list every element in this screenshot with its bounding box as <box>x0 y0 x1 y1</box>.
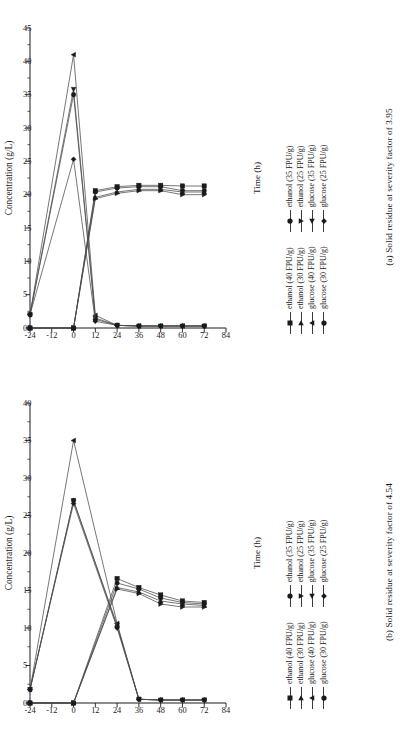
svg-text:60: 60 <box>178 331 186 340</box>
svg-text:40: 40 <box>23 399 31 408</box>
data-series <box>27 438 206 702</box>
svg-text:30: 30 <box>23 124 31 133</box>
legend-item: glucose (35 FPU/g) <box>308 520 316 608</box>
legend-marker-triangle-right-icon <box>297 687 305 709</box>
legend-item: ethanol (35 FPU/g) <box>286 145 294 233</box>
panel-a-svg: 051015202530354045-24-12012243648607284 <box>30 28 226 328</box>
data-series <box>28 587 207 706</box>
panel-b-legend: ethanol (40 FPU/g)ethanol (30 FPU/g)gluc… <box>286 399 328 709</box>
svg-text:40: 40 <box>23 57 31 66</box>
legend-item: ethanol (40 FPU/g) <box>286 621 294 709</box>
svg-text:12: 12 <box>91 706 99 715</box>
legend-item: glucose (25 FPU/g) <box>320 145 328 233</box>
svg-text:35: 35 <box>23 90 31 99</box>
svg-text:15: 15 <box>23 224 31 233</box>
svg-text:84: 84 <box>222 331 231 340</box>
svg-text:25: 25 <box>23 157 31 166</box>
legend-label: ethanol (25 FPU/g) <box>297 146 305 208</box>
legend-item: ethanol (30 FPU/g) <box>297 621 305 709</box>
svg-text:72: 72 <box>200 706 208 715</box>
panel-a-y-axis-title: Concentration (g/L) <box>4 28 14 328</box>
legend-label: ethanol (25 FPU/g) <box>297 521 305 583</box>
data-series <box>28 187 207 330</box>
panel-a-caption: (a) Solid residue at severity factor of … <box>384 0 394 374</box>
legend-marker-square-icon <box>286 312 294 334</box>
legend-label: ethanol (40 FPU/g) <box>286 247 294 309</box>
legend-label: glucose (25 FPU/g) <box>320 520 328 583</box>
svg-text:5: 5 <box>23 290 27 299</box>
figure-page: Concentration (g/L) 051015202530354045-2… <box>0 0 400 749</box>
legend-marker-circle-icon <box>320 687 328 709</box>
panel-b-x-axis-title: Time (h) <box>252 403 262 703</box>
svg-text:10: 10 <box>23 624 31 633</box>
panel-a-legend: ethanol (40 FPU/g)ethanol (30 FPU/g)gluc… <box>286 24 328 334</box>
legend-label: glucose (25 FPU/g) <box>320 145 328 208</box>
legend-column: ethanol (35 FPU/g)ethanol (25 FPU/g)gluc… <box>286 145 328 233</box>
figure-panel-b: Concentration (g/L) 0510152025303540-24-… <box>0 375 400 749</box>
svg-text:35: 35 <box>23 436 31 445</box>
legend-item: glucose (40 FPU/g) <box>308 621 316 709</box>
svg-text:20: 20 <box>23 549 31 558</box>
svg-text:45: 45 <box>23 24 31 33</box>
legend-label: glucose (35 FPU/g) <box>308 520 316 583</box>
svg-text:-12: -12 <box>46 706 57 715</box>
svg-text:-12: -12 <box>46 331 57 340</box>
legend-item: ethanol (25 FPU/g) <box>297 520 305 608</box>
svg-text:48: 48 <box>156 331 164 340</box>
data-series <box>27 157 206 329</box>
legend-marker-circle-icon <box>286 210 294 232</box>
legend-column: ethanol (40 FPU/g)ethanol (30 FPU/g)gluc… <box>286 621 328 709</box>
svg-text:36: 36 <box>135 706 143 715</box>
legend-item: ethanol (40 FPU/g) <box>286 246 294 334</box>
legend-marker-circle-icon <box>320 312 328 334</box>
data-series <box>28 585 207 705</box>
svg-text:15: 15 <box>23 586 31 595</box>
svg-text:48: 48 <box>156 706 164 715</box>
legend-label: glucose (30 FPU/g) <box>320 621 328 684</box>
data-series <box>28 92 207 328</box>
svg-text:0: 0 <box>71 331 75 340</box>
legend-label: ethanol (35 FPU/g) <box>286 146 294 208</box>
legend-marker-diamond-icon <box>320 210 328 232</box>
panel-a-plot-area: 051015202530354045-24-12012243648607284 <box>30 28 226 328</box>
legend-marker-triangle-down-icon <box>297 210 305 232</box>
legend-label: ethanol (35 FPU/g) <box>286 521 294 583</box>
data-series <box>28 576 207 705</box>
svg-text:0: 0 <box>71 706 75 715</box>
svg-text:72: 72 <box>200 331 208 340</box>
legend-marker-triangle-right-icon <box>297 312 305 334</box>
svg-text:36: 36 <box>135 331 143 340</box>
svg-text:-24: -24 <box>24 706 36 715</box>
legend-marker-triangle-left-icon <box>308 585 316 607</box>
legend-item: glucose (40 FPU/g) <box>308 246 316 334</box>
legend-item: ethanol (30 FPU/g) <box>297 246 305 334</box>
svg-text:-24: -24 <box>24 331 36 340</box>
legend-label: ethanol (30 FPU/g) <box>297 622 305 684</box>
svg-text:20: 20 <box>23 190 31 199</box>
legend-item: glucose (25 FPU/g) <box>320 520 328 608</box>
svg-text:24: 24 <box>113 331 122 340</box>
svg-text:30: 30 <box>23 474 31 483</box>
legend-marker-triangle-down-icon <box>297 585 305 607</box>
legend-label: ethanol (30 FPU/g) <box>297 247 305 309</box>
data-series <box>28 184 207 330</box>
legend-item: glucose (30 FPU/g) <box>320 246 328 334</box>
legend-label: ethanol (40 FPU/g) <box>286 622 294 684</box>
data-series <box>28 87 207 328</box>
legend-marker-circle-icon <box>286 585 294 607</box>
svg-text:10: 10 <box>23 257 31 266</box>
panel-b-plot-area: 0510152025303540-24-12012243648607284 <box>30 403 226 703</box>
svg-text:60: 60 <box>178 706 186 715</box>
data-series <box>28 581 207 706</box>
legend-label: glucose (35 FPU/g) <box>308 145 316 208</box>
panel-a-x-axis-title: Time (h) <box>252 28 262 328</box>
legend-item: ethanol (35 FPU/g) <box>286 520 294 608</box>
legend-item: glucose (35 FPU/g) <box>308 145 316 233</box>
panel-b-caption: (b) Solid residue at severity factor of … <box>384 375 394 749</box>
legend-item: ethanol (25 FPU/g) <box>297 145 305 233</box>
panel-b-y-axis-title: Concentration (g/L) <box>4 403 14 703</box>
legend-marker-triangle-up-icon <box>308 687 316 709</box>
legend-column: ethanol (35 FPU/g)ethanol (25 FPU/g)gluc… <box>286 520 328 608</box>
legend-label: glucose (30 FPU/g) <box>320 246 328 309</box>
svg-text:25: 25 <box>23 511 31 520</box>
